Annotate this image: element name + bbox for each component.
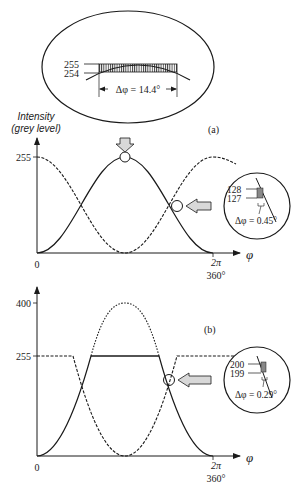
x-tick-360-b: 360°: [207, 473, 226, 484]
y-tick-255: 255: [16, 152, 31, 163]
magnifier-b: 200 199 Δφ = 0.29°: [224, 347, 290, 413]
panel-b-label: (b): [204, 324, 216, 336]
down-arrow-icon: [116, 138, 134, 152]
x-axis-phi-b: φ: [246, 450, 253, 465]
x-axis-phi: φ: [246, 247, 253, 262]
left-arrow-icon-b: [178, 373, 211, 387]
level-127-label: 127: [227, 194, 242, 204]
panel-a: Intensity (grey level) (a) 255 0 2π 360°…: [11, 111, 290, 281]
panel-b: (b) 400 255 0 2π 360° φ 200: [16, 287, 290, 484]
level-199-label: 199: [230, 369, 245, 379]
y-axis-label-grey-level: (grey level): [11, 123, 60, 134]
x-tick-2pi-b: 2π: [211, 460, 222, 471]
delta-phi-029-label: Δφ = 0.29°: [235, 390, 277, 400]
zoom-ellipse: 255 254 Δφ = 14.4°: [42, 11, 214, 123]
y-tick-400: 400: [16, 298, 31, 309]
y-tick-255-b: 255: [16, 351, 31, 362]
level-254-label: 254: [64, 68, 79, 79]
dashed-curve-b: [37, 356, 236, 456]
x-tick-2pi: 2π: [211, 257, 222, 268]
solid-curve-a: [37, 157, 213, 253]
panel-a-label: (a): [208, 124, 219, 136]
figure-canvas: 255 254 Δφ = 14.4° Intensity (grey level…: [0, 0, 296, 497]
delta-phi-045-label: Δφ = 0.45°: [235, 216, 277, 226]
x-tick-0: 0: [35, 259, 40, 270]
magnifier-a: 128 127 Δφ = 0.45°: [224, 173, 290, 239]
dotted-curve-b: [91, 303, 159, 356]
peak-marker-circle: [120, 152, 130, 162]
crossing-marker-circle-a: [172, 201, 183, 212]
y-axis-label-intensity: Intensity: [17, 111, 55, 122]
left-arrow-icon: [186, 199, 211, 213]
x-tick-0-b: 0: [35, 462, 40, 473]
delta-phi-14-label: Δφ = 14.4°: [116, 84, 160, 95]
x-tick-360: 360°: [207, 270, 226, 281]
solid-curve-b: [37, 356, 213, 456]
